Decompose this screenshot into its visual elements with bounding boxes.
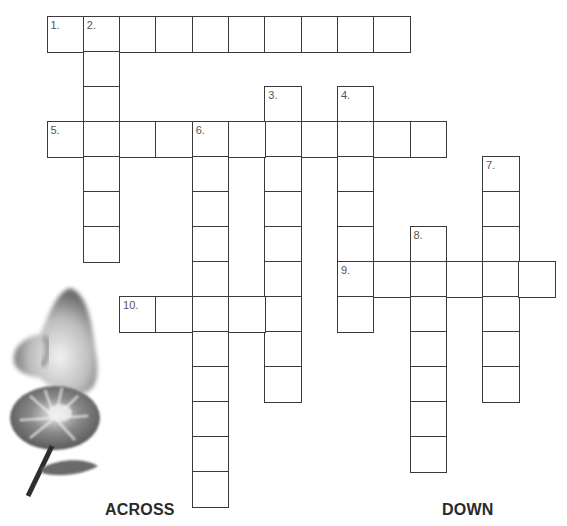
crossword-cell[interactable] — [83, 226, 121, 263]
crossword-puzzle: 1.2.3.4.9.5.6.7.8.10. — [0, 0, 567, 526]
clue-number: 8. — [414, 229, 423, 241]
crossword-cell[interactable] — [264, 296, 302, 333]
crossword-cell[interactable] — [228, 121, 266, 158]
crossword-cell[interactable] — [83, 156, 121, 193]
across-heading: ACROSS — [105, 501, 175, 519]
down-heading: DOWN — [442, 501, 493, 519]
clue-number: 4. — [341, 89, 350, 101]
crossword-cell[interactable]: 2. — [83, 16, 121, 53]
crossword-cell[interactable] — [482, 261, 520, 298]
clue-number: 6. — [196, 124, 205, 136]
clue-number: 9. — [341, 264, 350, 276]
crossword-cell[interactable] — [301, 16, 339, 53]
crossword-cell[interactable] — [264, 121, 302, 158]
crossword-cell[interactable] — [228, 16, 266, 53]
crossword-cell[interactable]: 3. — [264, 86, 302, 123]
crossword-cell[interactable] — [301, 121, 339, 158]
crossword-cell[interactable] — [410, 121, 448, 158]
crossword-cell[interactable] — [337, 16, 375, 53]
crossword-cell[interactable]: 6. — [192, 121, 230, 158]
crossword-cell[interactable] — [482, 331, 520, 368]
crossword-cell[interactable] — [264, 331, 302, 368]
crossword-cell[interactable] — [192, 296, 230, 333]
crossword-cell[interactable] — [410, 261, 448, 298]
crossword-cell[interactable] — [228, 296, 266, 333]
crossword-cell[interactable] — [264, 366, 302, 403]
crossword-cell[interactable] — [192, 16, 230, 53]
crossword-cell[interactable]: 7. — [482, 156, 520, 193]
crossword-cell[interactable] — [192, 436, 230, 473]
nose-smelling-flower-icon — [0, 278, 110, 503]
crossword-cell[interactable] — [83, 121, 121, 158]
crossword-cell[interactable] — [83, 86, 121, 123]
crossword-cell[interactable] — [337, 191, 375, 228]
crossword-cell[interactable]: 8. — [410, 226, 448, 263]
crossword-cell[interactable] — [83, 51, 121, 88]
crossword-cell[interactable] — [410, 366, 448, 403]
crossword-cell[interactable] — [119, 121, 157, 158]
crossword-cell[interactable] — [264, 261, 302, 298]
clue-number: 7. — [486, 159, 495, 171]
crossword-cell[interactable] — [410, 296, 448, 333]
crossword-cell[interactable] — [264, 226, 302, 263]
crossword-cell[interactable] — [155, 16, 193, 53]
crossword-cell[interactable] — [264, 16, 302, 53]
crossword-cell[interactable] — [192, 226, 230, 263]
clue-number: 1. — [51, 19, 60, 31]
clue-number: 3. — [268, 89, 277, 101]
crossword-cell[interactable] — [192, 261, 230, 298]
crossword-cell[interactable]: 10. — [119, 296, 157, 333]
crossword-cell[interactable] — [192, 401, 230, 438]
crossword-cell[interactable] — [410, 401, 448, 438]
crossword-cell[interactable] — [410, 331, 448, 368]
crossword-cell[interactable] — [410, 436, 448, 473]
crossword-cell[interactable] — [482, 296, 520, 333]
crossword-cell[interactable] — [155, 121, 193, 158]
crossword-cell[interactable] — [192, 191, 230, 228]
crossword-cell[interactable] — [83, 191, 121, 228]
crossword-cell[interactable] — [482, 226, 520, 263]
clue-number: 5. — [51, 124, 60, 136]
crossword-cell[interactable] — [119, 16, 157, 53]
crossword-cell[interactable] — [155, 296, 193, 333]
crossword-cell[interactable] — [373, 16, 411, 53]
crossword-cell[interactable]: 9. — [337, 261, 375, 298]
crossword-cell[interactable]: 4. — [337, 86, 375, 123]
crossword-cell[interactable] — [337, 226, 375, 263]
crossword-cell[interactable] — [337, 121, 375, 158]
clue-number: 2. — [87, 19, 96, 31]
crossword-cell[interactable] — [337, 296, 375, 333]
crossword-cell[interactable] — [373, 121, 411, 158]
crossword-cell[interactable] — [482, 191, 520, 228]
crossword-cell[interactable] — [192, 471, 230, 508]
crossword-cell[interactable] — [264, 191, 302, 228]
crossword-cell[interactable] — [482, 366, 520, 403]
clue-number: 10. — [123, 299, 138, 311]
crossword-cell[interactable] — [337, 156, 375, 193]
crossword-cell[interactable] — [264, 156, 302, 193]
crossword-cell[interactable] — [373, 261, 411, 298]
crossword-cell[interactable] — [192, 331, 230, 368]
crossword-cell[interactable] — [518, 261, 556, 298]
crossword-cell[interactable] — [192, 366, 230, 403]
crossword-cell[interactable] — [192, 156, 230, 193]
crossword-cell[interactable]: 5. — [47, 121, 85, 158]
crossword-cell[interactable]: 1. — [47, 16, 85, 53]
crossword-cell[interactable] — [446, 261, 484, 298]
